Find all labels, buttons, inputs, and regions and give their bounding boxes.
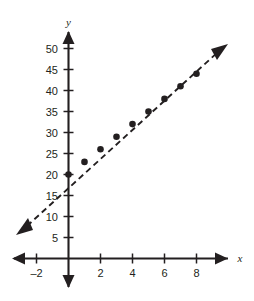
x-tick-label-8: 8 <box>193 267 199 279</box>
graph-svg: –2 2 4 6 8 5 10 15 20 25 30 35 <box>0 0 254 301</box>
y-tick-label-35: 35 <box>46 106 58 118</box>
data-point <box>65 171 72 178</box>
y-tick-label-30: 30 <box>46 127 58 139</box>
data-point <box>193 70 200 77</box>
data-point <box>161 96 168 103</box>
y-tick-label-40: 40 <box>46 85 58 97</box>
y-tick-label-15: 15 <box>46 190 58 202</box>
y-axis-up-arrowhead <box>63 31 75 44</box>
x-tick-labels-group: –2 2 4 6 8 <box>30 267 199 279</box>
y-axis-down-arrowhead <box>63 275 75 288</box>
y-tick-label-50: 50 <box>46 43 58 55</box>
y-tick-label-5: 5 <box>52 232 58 244</box>
data-line-upper-right-arrowhead <box>211 44 228 60</box>
x-axis-left-arrowhead <box>12 253 25 265</box>
data-point <box>145 108 152 115</box>
coordinate-plane-graph: –2 2 4 6 8 5 10 15 20 25 30 35 <box>0 0 254 301</box>
data-point <box>97 146 104 153</box>
y-tick-label-20: 20 <box>46 169 58 181</box>
x-tick-label-6: 6 <box>161 267 167 279</box>
x-axis-label: x <box>237 252 243 264</box>
x-tick-label-2: 2 <box>97 267 103 279</box>
y-tick-labels-group: 5 10 15 20 25 30 35 40 45 50 <box>46 43 58 244</box>
data-point <box>129 121 136 128</box>
x-tick-label-4: 4 <box>129 267 135 279</box>
x-axis-right-arrowhead <box>215 253 228 265</box>
y-tick-label-10: 10 <box>46 211 58 223</box>
x-tick-label-neg2: –2 <box>30 267 42 279</box>
data-line-lower-left-arrowhead <box>16 218 33 235</box>
data-point <box>81 159 88 166</box>
y-axis-label: y <box>65 16 71 28</box>
data-point <box>113 133 120 140</box>
data-points-group <box>65 70 200 177</box>
y-tick-label-45: 45 <box>46 64 58 76</box>
y-tick-label-25: 25 <box>46 148 58 160</box>
data-point <box>177 83 184 90</box>
axes-group <box>12 31 228 288</box>
